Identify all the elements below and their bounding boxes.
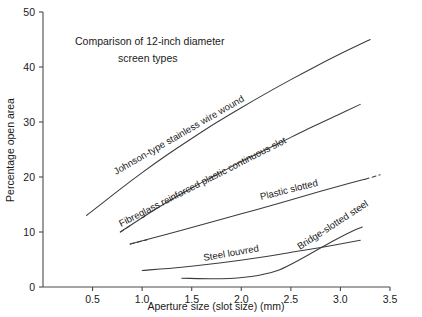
chart-plot-area: 01020304050 0.51.01.52.02.53.03.5 Johnso… bbox=[0, 0, 422, 317]
y-tick-label: 20 bbox=[23, 171, 35, 183]
y-tick-label: 0 bbox=[29, 281, 35, 293]
chart-title-line-2: screen types bbox=[118, 52, 178, 64]
chart-title-line-1: Comparison of 12-inch diameter bbox=[75, 35, 225, 47]
chart-figure: 01020304050 0.51.01.52.02.53.03.5 Johnso… bbox=[0, 0, 422, 317]
x-tick-label: 0.5 bbox=[85, 293, 100, 305]
y-tick-label: 10 bbox=[23, 226, 35, 238]
x-tick-label: 3.0 bbox=[333, 293, 348, 305]
x-tick-label: 3.5 bbox=[383, 293, 398, 305]
y-tick-label: 50 bbox=[23, 6, 35, 18]
x-axis-title: Aperture size (slot size) (mm) bbox=[147, 300, 284, 312]
y-tick-label: 30 bbox=[23, 116, 35, 128]
y-axis-title: Percentage open area bbox=[4, 98, 16, 202]
chart-background bbox=[0, 0, 422, 317]
x-tick-label: 2.5 bbox=[284, 293, 299, 305]
y-tick-label: 40 bbox=[23, 61, 35, 73]
